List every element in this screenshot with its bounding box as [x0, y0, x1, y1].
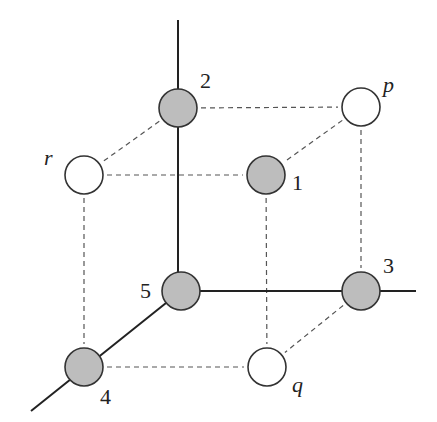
node-p-open — [342, 88, 380, 126]
node-label-p: p — [381, 72, 394, 97]
node-2-filled — [159, 89, 197, 127]
node-label-q: q — [292, 372, 303, 397]
dashed-edge-3-q — [285, 305, 343, 352]
node-label-4: 4 — [100, 384, 111, 409]
cube-diagram: 2pr1534q — [0, 0, 437, 422]
node-3-filled — [342, 272, 380, 310]
node-label-1: 1 — [292, 170, 303, 195]
node-4-filled — [65, 348, 103, 386]
dashed-edge-2-p — [201, 107, 338, 108]
node-q-open — [248, 348, 286, 386]
node-r-open — [65, 156, 103, 194]
dashed-edge-1-q — [266, 198, 267, 344]
node-label-r: r — [44, 145, 53, 170]
dashed-edge-p-1 — [285, 120, 343, 161]
dashed-edges — [84, 107, 361, 367]
node-label-5: 5 — [140, 278, 151, 303]
node-1-filled — [247, 156, 285, 194]
dashed-edge-2-r — [103, 121, 160, 161]
node-label-2: 2 — [200, 68, 211, 93]
node-label-3: 3 — [383, 253, 394, 278]
node-5-filled — [162, 272, 200, 310]
nodes — [65, 88, 380, 386]
